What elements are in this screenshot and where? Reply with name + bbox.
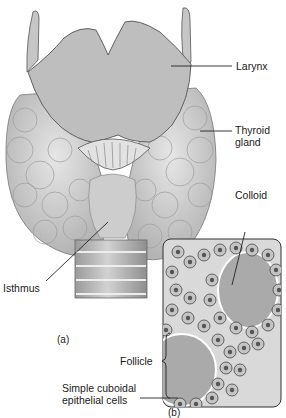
label-larynx: Larynx xyxy=(236,60,268,72)
label-isthmus: Isthmus xyxy=(3,282,40,294)
trachea xyxy=(75,240,147,298)
label-colloid: Colloid xyxy=(235,189,267,201)
label-thyroid-gland-2: gland xyxy=(235,136,261,148)
label-cuboidal-1: Simple cuboidal xyxy=(62,382,136,394)
label-thyroid-gland-1: Thyroid xyxy=(235,124,270,136)
panel-label-a: (a) xyxy=(57,334,69,345)
panel-label-b: (b) xyxy=(168,407,180,418)
isthmus-region xyxy=(89,174,137,238)
label-cuboidal-2: epithelial cells xyxy=(62,394,127,406)
label-follicle: Follicle xyxy=(120,355,153,367)
follicle-histology-inset xyxy=(148,239,285,410)
